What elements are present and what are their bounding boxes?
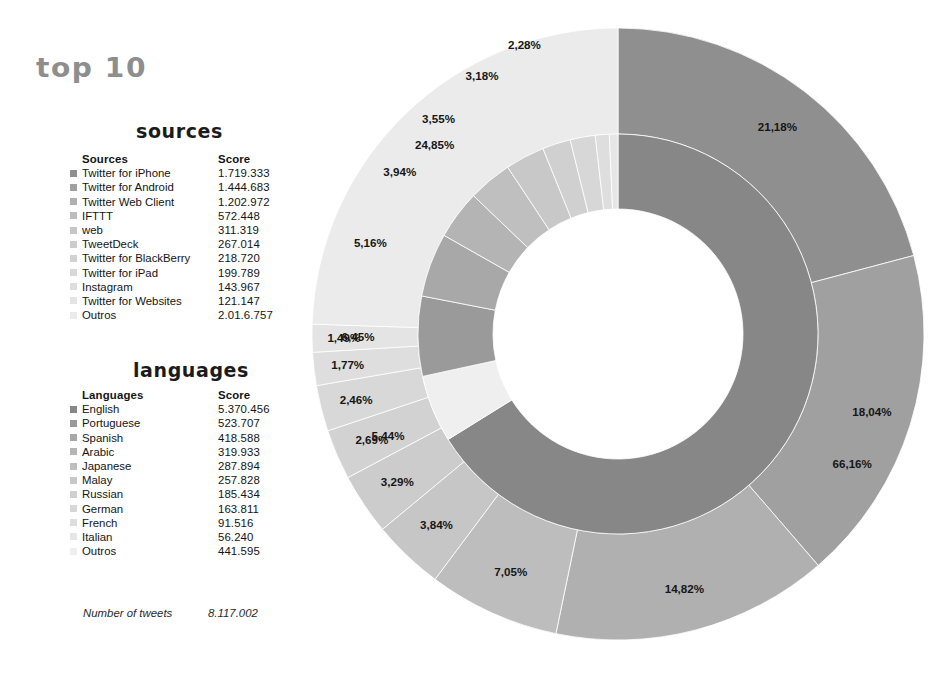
table-row: Outros441.595 — [70, 544, 270, 558]
legend-color-swatch — [70, 297, 77, 304]
legend-color-swatch — [70, 406, 77, 413]
legend-color-swatch — [70, 184, 77, 191]
table-row: Twitter for BlackBerry218.720 — [70, 251, 273, 265]
legend-color-swatch — [70, 434, 77, 441]
legend-color-swatch — [70, 212, 77, 219]
language-score: 185.434 — [218, 487, 260, 501]
total-tweets-label: Number of tweets — [83, 607, 208, 619]
slice-percent-label: 18,04% — [852, 405, 891, 418]
legend-color-swatch — [70, 255, 77, 262]
donut-chart-svg: 21,18%18,04%14,82%7,05%3,84%3,29%2,69%2,… — [312, 28, 924, 640]
table-row: German163.811 — [70, 502, 270, 516]
column-header-languages: Languages — [82, 388, 218, 402]
source-score: 121.147 — [218, 294, 260, 308]
sources-section-heading: sources — [136, 120, 223, 142]
language-name: Malay — [82, 473, 218, 487]
table-header-row: Languages Score — [70, 388, 270, 402]
legend-color-swatch — [70, 477, 77, 484]
slice-percent-label: 1,77% — [331, 358, 364, 371]
language-score: 257.828 — [218, 473, 260, 487]
source-name: IFTTT — [82, 209, 218, 223]
language-name: Outros — [82, 544, 218, 558]
legend-color-swatch — [70, 548, 77, 555]
table-row: IFTTT572.448 — [70, 209, 273, 223]
table-row: Twitter for Websites121.147 — [70, 294, 273, 308]
double-ring-donut-chart: 21,18%18,04%14,82%7,05%3,84%3,29%2,69%2,… — [312, 28, 924, 640]
source-name: Twitter for iPhone — [82, 166, 218, 180]
column-header-score: Score — [218, 152, 250, 166]
source-name: TweetDeck — [82, 237, 218, 251]
source-score: 1.444.683 — [218, 180, 270, 194]
source-score: 199.789 — [218, 266, 260, 280]
table-row: Twitter for iPhone1.719.333 — [70, 166, 273, 180]
table-row: Japanese287.894 — [70, 459, 270, 473]
source-score: 143.967 — [218, 280, 260, 294]
column-header-score: Score — [218, 388, 250, 402]
legend-color-swatch — [70, 198, 77, 205]
header-swatch-spacer — [70, 392, 77, 399]
legend-color-swatch — [70, 283, 77, 290]
source-name: web — [82, 223, 218, 237]
source-name: Twitter for Android — [82, 180, 218, 194]
language-name: Russian — [82, 487, 218, 501]
slice-percent-label: 24,85% — [415, 138, 454, 151]
table-row: Arabic319.933 — [70, 445, 270, 459]
table-row: TweetDeck267.014 — [70, 237, 273, 251]
source-score: 311.319 — [218, 223, 259, 237]
slice-percent-label: 5,44% — [372, 429, 405, 442]
legend-color-swatch — [70, 448, 77, 455]
page-title: top 10 — [36, 52, 147, 83]
source-score: 2.01.6.757 — [218, 308, 273, 322]
total-tweets-value: 8.117.002 — [208, 607, 258, 619]
source-name: Twitter for BlackBerry — [82, 251, 218, 265]
slice-percent-label: 3,94% — [383, 165, 416, 178]
legend-color-swatch — [70, 241, 77, 248]
language-score: 523.707 — [218, 416, 260, 430]
table-row: Russian185.434 — [70, 487, 270, 501]
slice-percent-label: 2,46% — [340, 393, 373, 406]
column-header-sources: Sources — [82, 152, 218, 166]
legend-color-swatch — [70, 463, 77, 470]
language-name: German — [82, 502, 218, 516]
languages-section-heading: languages — [133, 359, 249, 381]
table-row: Malay257.828 — [70, 473, 270, 487]
slice-percent-label: 2,28% — [508, 38, 541, 51]
legend-color-swatch — [70, 269, 77, 276]
language-score: 5.370.456 — [218, 402, 270, 416]
slice-percent-label: 66,16% — [833, 457, 872, 470]
table-row: Portuguese523.707 — [70, 416, 270, 430]
total-tweets-row: Number of tweets 8.117.002 — [83, 607, 258, 619]
table-row: Outros2.01.6.757 — [70, 308, 273, 322]
table-row: Twitter for iPad199.789 — [70, 266, 273, 280]
slice-percent-label: 7,05% — [494, 565, 527, 578]
table-row: Twitter Web Client1.202.972 — [70, 195, 273, 209]
language-name: Arabic — [82, 445, 218, 459]
language-name: English — [82, 402, 218, 416]
slice-percent-label: 3,55% — [422, 112, 455, 125]
legend-color-swatch — [70, 519, 77, 526]
source-name: Twitter for iPad — [82, 266, 218, 280]
table-header-row: Sources Score — [70, 152, 273, 166]
slice-percent-label: 3,18% — [466, 69, 499, 82]
language-score: 163.811 — [218, 502, 259, 516]
legend-color-swatch — [70, 491, 77, 498]
language-score: 319.933 — [218, 445, 260, 459]
language-score: 56.240 — [218, 530, 253, 544]
language-name: Italian — [82, 530, 218, 544]
languages-ring — [418, 134, 818, 534]
language-score: 91.516 — [218, 516, 253, 530]
legend-color-swatch — [70, 533, 77, 540]
slice-percent-label: 6,45% — [342, 330, 375, 343]
source-score: 267.014 — [218, 237, 260, 251]
table-row: French91.516 — [70, 516, 270, 530]
legend-color-swatch — [70, 312, 77, 319]
table-row: English5.370.456 — [70, 402, 270, 416]
legend-color-swatch — [70, 227, 77, 234]
table-row: web311.319 — [70, 223, 273, 237]
table-row: Italian56.240 — [70, 530, 270, 544]
language-score: 418.588 — [218, 431, 260, 445]
source-name: Instagram — [82, 280, 218, 294]
legend-color-swatch — [70, 170, 77, 177]
source-score: 572.448 — [218, 209, 260, 223]
slice-percent-label: 3,29% — [381, 475, 414, 488]
